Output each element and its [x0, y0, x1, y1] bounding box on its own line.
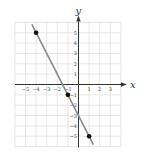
x-tick-label: −3	[43, 86, 50, 92]
x-tick-label: −2	[54, 86, 61, 92]
x-axis-arrow-icon	[121, 82, 127, 86]
y-tick-label: 3	[74, 50, 77, 56]
y-tick-label: −3	[70, 113, 77, 119]
x-tick-label: 2	[98, 86, 101, 92]
data-point	[87, 134, 92, 139]
y-tick-label: 1	[74, 71, 77, 77]
y-axis-label: y	[75, 5, 82, 16]
data-point	[66, 93, 71, 98]
y-tick-label: 2	[74, 61, 77, 67]
x-axis-label: x	[130, 79, 136, 90]
coordinate-plane: −5−4−3−2−112354321−1−2−3−4−5 x y	[0, 0, 142, 156]
x-tick-label: −4	[32, 86, 39, 92]
data-point	[34, 30, 39, 35]
y-tick-label: 5	[74, 30, 77, 36]
x-tick-label: 1	[88, 86, 91, 92]
y-tick-label: −1	[70, 92, 77, 98]
x-tick-label: 3	[109, 86, 112, 92]
x-tick-label: −5	[22, 86, 29, 92]
y-tick-label: −5	[70, 133, 77, 139]
y-tick-label: −4	[70, 123, 77, 129]
y-tick-label: 4	[74, 40, 77, 46]
